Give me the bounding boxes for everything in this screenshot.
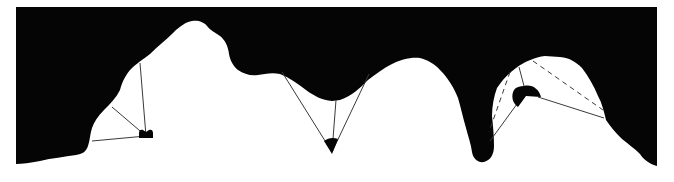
sight-line	[538, 97, 604, 118]
sight-line	[92, 136, 146, 141]
sight-line	[519, 67, 524, 86]
viewpoint-marker	[512, 86, 541, 107]
diagram-svg	[0, 0, 674, 182]
sight-line	[490, 104, 517, 141]
viewpoint-marker	[324, 138, 338, 154]
terrain-viewpoint-diagram	[0, 0, 674, 182]
sight-line	[140, 63, 146, 136]
